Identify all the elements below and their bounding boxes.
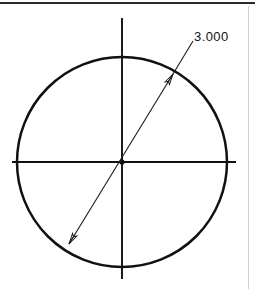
diameter-dimension-value[interactable]: 3.000: [194, 29, 229, 44]
drawing-canvas: 3.000: [0, 0, 255, 289]
cad-drawing-svg: 3.000: [0, 0, 255, 289]
